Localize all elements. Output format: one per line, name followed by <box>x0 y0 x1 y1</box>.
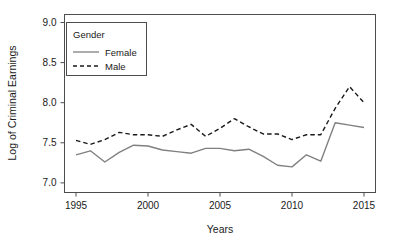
y-tick-label: 7.5 <box>43 137 57 148</box>
line-chart: 7.07.58.08.59.0 19952000200520102015 Gen… <box>0 0 393 243</box>
y-tick-label: 8.0 <box>43 97 57 108</box>
legend-label-female: Female <box>105 47 137 58</box>
y-tick-label: 9.0 <box>43 17 57 28</box>
legend[interactable]: Gender Female Male <box>67 23 147 76</box>
y-axis-title: Log of Criminal Earnings <box>6 46 18 161</box>
chart-background <box>0 0 393 243</box>
y-tick-label: 7.0 <box>43 177 57 188</box>
x-tick-label: 2015 <box>353 200 376 211</box>
x-tick-label: 2010 <box>281 200 304 211</box>
legend-label-male: Male <box>105 61 126 72</box>
y-tick-label: 8.5 <box>43 57 57 68</box>
x-tick-label: 2000 <box>137 200 160 211</box>
x-tick-label: 1995 <box>65 200 88 211</box>
legend-title: Gender <box>73 29 105 40</box>
chart-figure: 7.07.58.08.59.0 19952000200520102015 Gen… <box>0 0 393 243</box>
x-axis-title: Years <box>207 223 233 235</box>
x-tick-label: 2005 <box>209 200 232 211</box>
